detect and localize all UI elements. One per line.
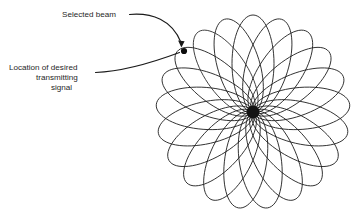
selected-beam-leader-line — [130, 14, 182, 42]
location-leader-line — [96, 53, 180, 73]
label-location-line-3: signal — [51, 83, 72, 92]
label-location-line-2: transmitting — [36, 73, 78, 82]
label-selected-beam: Selected beam — [62, 10, 116, 19]
beam-pattern-svg: Selected beam Location of desired transm… — [0, 0, 362, 222]
beam-petal — [156, 87, 253, 130]
beam-pattern-figure: Selected beam Location of desired transm… — [0, 0, 362, 222]
label-location-line-1: Location of desired — [9, 63, 77, 72]
beam-petal — [168, 106, 255, 167]
selected-beam-arrowhead — [178, 41, 185, 48]
pattern-center-hub — [247, 106, 260, 119]
desired-signal-location-dot — [181, 48, 187, 54]
beam-petal — [204, 111, 261, 200]
beam-petal — [246, 111, 303, 200]
beam-petal — [252, 106, 339, 167]
beam-petal — [253, 87, 350, 130]
beam-petal — [232, 15, 274, 112]
